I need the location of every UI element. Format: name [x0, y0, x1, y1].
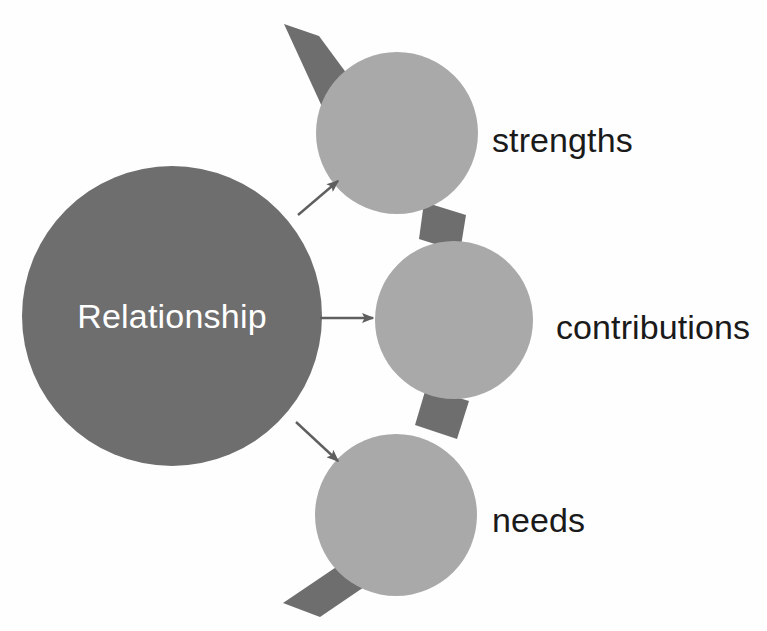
node-contributions-circle[interactable]	[375, 241, 533, 399]
node-relationship-label: Relationship	[77, 297, 267, 335]
label-contributions: contributions	[556, 308, 750, 346]
relationship-diagram: Relationship strengths contributions nee…	[0, 0, 767, 631]
label-needs: needs	[492, 501, 585, 539]
diagram-canvas: Relationship strengths contributions nee…	[0, 0, 767, 631]
node-strengths-circle[interactable]	[316, 52, 478, 214]
label-strengths: strengths	[492, 121, 633, 159]
node-needs-circle[interactable]	[315, 434, 477, 596]
